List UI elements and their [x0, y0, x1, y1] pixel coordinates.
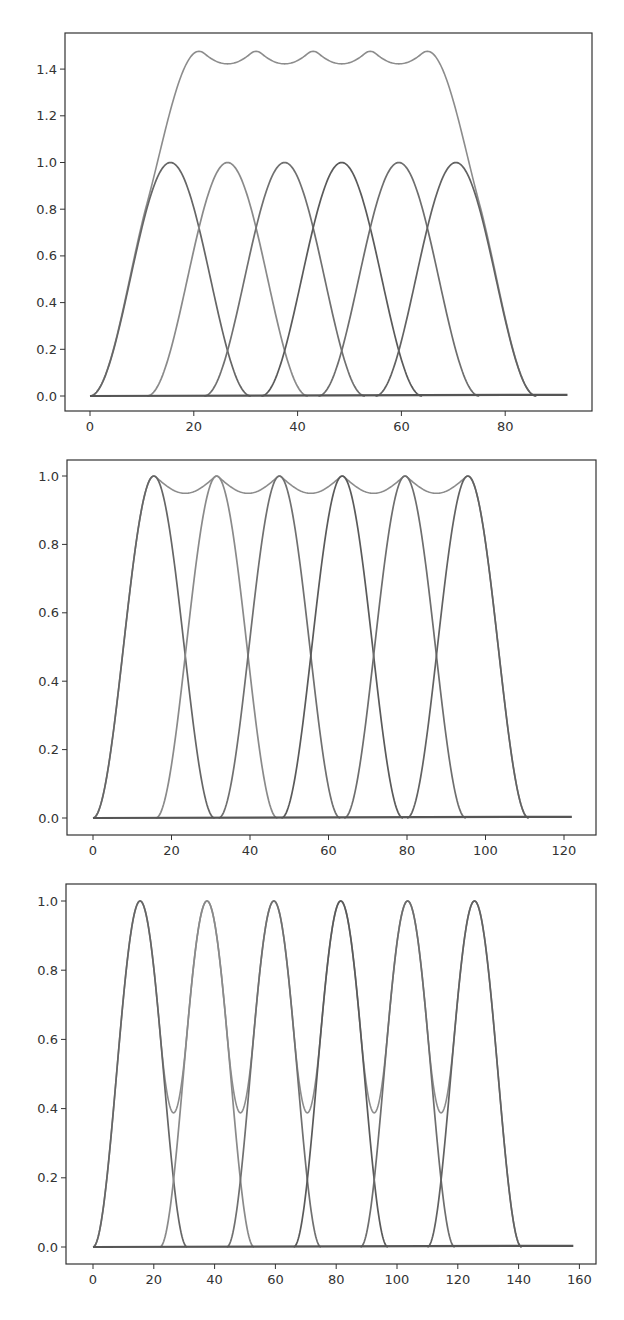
y-tick-label: 0.8: [37, 963, 58, 978]
window-curve-2: [147, 163, 308, 397]
y-tick-label: 0.6: [38, 605, 59, 620]
chart-2-plot: 0.00.20.40.60.81.0020406080100120: [0, 440, 624, 870]
x-tick-label: 20: [186, 419, 203, 434]
y-tick-label: 0.0: [37, 1240, 58, 1255]
y-tick-label: 0.6: [36, 248, 57, 263]
x-tick-label: 80: [328, 1272, 345, 1287]
chart-1-plot: 0.00.20.40.60.81.01.21.4020406080: [0, 0, 624, 440]
x-tick-label: 160: [567, 1272, 592, 1287]
x-tick-label: 80: [497, 419, 514, 434]
y-tick-label: 0.8: [38, 537, 59, 552]
x-tick-label: 140: [506, 1272, 531, 1287]
x-tick-label: 60: [267, 1272, 284, 1287]
y-tick-label: 0.0: [38, 811, 59, 826]
y-tick-label: 1.2: [36, 108, 57, 123]
y-tick-label: 0.2: [37, 1170, 58, 1185]
x-tick-label: 40: [206, 1272, 223, 1287]
sum-curve: [93, 476, 529, 818]
x-tick-label: 40: [242, 843, 259, 858]
window-curve-5: [318, 163, 479, 397]
zero-baseline: [93, 1246, 573, 1247]
window-curve-6: [407, 476, 529, 818]
window-curve-6: [427, 901, 521, 1247]
x-tick-label: 100: [473, 843, 498, 858]
x-tick-label: 60: [320, 843, 337, 858]
window-curve-3: [204, 163, 365, 397]
zero-baseline: [90, 395, 567, 396]
window-curve-5: [361, 901, 455, 1247]
zero-baseline: [93, 817, 572, 818]
y-tick-label: 0.0: [36, 389, 57, 404]
x-tick-label: 120: [552, 843, 577, 858]
plot-frame: [67, 460, 596, 835]
window-curve-5: [344, 476, 466, 818]
x-tick-label: 20: [163, 843, 180, 858]
chart-panel-2: 0.00.20.40.60.81.0020406080100120: [0, 440, 624, 870]
y-tick-label: 1.0: [36, 155, 57, 170]
window-curve-2: [160, 901, 254, 1247]
x-tick-label: 60: [393, 419, 410, 434]
y-tick-label: 0.8: [36, 202, 57, 217]
window-curve-4: [261, 163, 422, 397]
window-curve-2: [156, 476, 278, 818]
y-tick-label: 0.6: [37, 1032, 58, 1047]
y-tick-label: 0.4: [37, 1101, 58, 1116]
y-tick-label: 1.4: [36, 62, 57, 77]
x-tick-label: 100: [385, 1272, 410, 1287]
window-curve-3: [219, 476, 341, 818]
y-tick-label: 0.2: [36, 342, 57, 357]
x-tick-label: 0: [89, 843, 97, 858]
sum-curve: [93, 901, 522, 1247]
chart-3-plot: 0.00.20.40.60.81.0020406080100120140160: [0, 870, 624, 1320]
y-tick-label: 0.4: [36, 295, 57, 310]
y-tick-label: 0.4: [38, 674, 59, 689]
x-tick-label: 40: [289, 419, 306, 434]
window-curve-3: [227, 901, 321, 1247]
window-curve-4: [294, 901, 388, 1247]
y-tick-label: 0.2: [38, 742, 59, 757]
window-curve-1: [93, 476, 215, 818]
window-curve-4: [281, 476, 403, 818]
chart-panel-3: 0.00.20.40.60.81.0020406080100120140160: [0, 870, 624, 1320]
x-tick-label: 120: [445, 1272, 470, 1287]
x-tick-label: 0: [89, 1272, 97, 1287]
x-tick-label: 20: [146, 1272, 163, 1287]
sum-curve: [90, 51, 536, 396]
y-tick-label: 1.0: [38, 469, 59, 484]
x-tick-label: 0: [86, 419, 94, 434]
x-tick-label: 80: [399, 843, 416, 858]
window-curve-6: [375, 163, 536, 397]
window-curve-1: [93, 901, 187, 1247]
window-curve-1: [90, 163, 251, 397]
chart-panel-1: 0.00.20.40.60.81.01.21.4020406080: [0, 0, 624, 440]
y-tick-label: 1.0: [37, 894, 58, 909]
